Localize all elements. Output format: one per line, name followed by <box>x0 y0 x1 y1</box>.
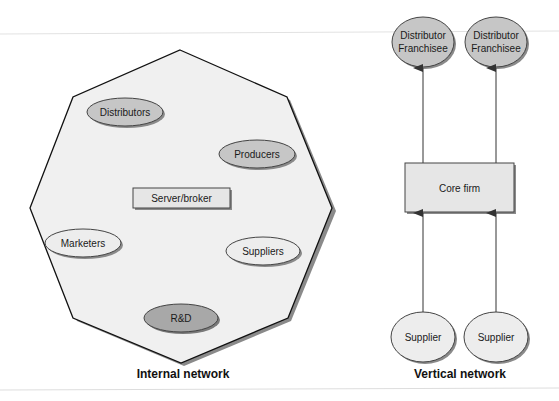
node-label-line1: Distributor <box>400 30 446 41</box>
server-broker-box: Server/broker <box>133 188 232 210</box>
server-broker-label: Server/broker <box>151 193 212 204</box>
node-label: Supplier <box>405 332 442 343</box>
node-label: Suppliers <box>242 246 284 257</box>
node-label: Producers <box>234 149 280 160</box>
network-diagram: Distributors Producers Server/broker Mar… <box>0 0 559 401</box>
node-distributor-franchisee-2: Distributor Franchisee <box>465 17 529 69</box>
node-label: Marketers <box>61 238 105 249</box>
node-supplier-2: Supplier <box>464 312 530 364</box>
node-supplier-1: Supplier <box>391 312 457 364</box>
vertical-network-caption: Vertical network <box>414 367 506 381</box>
core-firm-box: Core firm <box>405 163 516 214</box>
internal-network: Distributors Producers Server/broker Mar… <box>30 50 336 381</box>
node-label-line2: Franchisee <box>398 43 448 54</box>
node-distributor-franchisee-1: Distributor Franchisee <box>392 17 456 69</box>
node-label-line1: Distributor <box>473 30 519 41</box>
node-label: Supplier <box>478 332 515 343</box>
internal-network-caption: Internal network <box>137 367 230 381</box>
core-firm-label: Core firm <box>439 183 480 194</box>
node-label: R&D <box>170 313 191 324</box>
bottom-rule <box>0 388 559 390</box>
vertical-network: Distributor Franchisee Distributor Franc… <box>391 17 530 381</box>
node-label: Distributors <box>100 107 151 118</box>
node-label-line2: Franchisee <box>471 43 521 54</box>
